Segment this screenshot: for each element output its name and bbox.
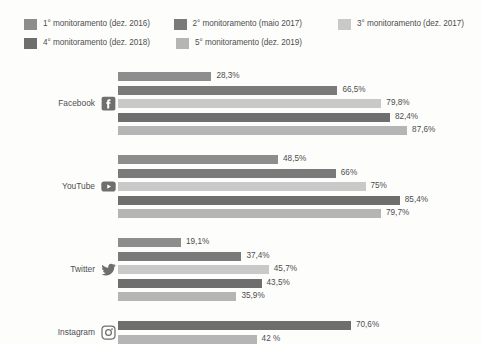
- category-label-wrap-instagram: Instagram: [0, 321, 116, 344]
- bar-value-label: 85,4%: [405, 196, 428, 204]
- legend-item-2: 2° monitoramento (maio 2017): [174, 19, 338, 30]
- bar: [118, 335, 257, 344]
- facebook-icon: [101, 96, 116, 111]
- bar-row: 79,8%: [118, 99, 481, 108]
- youtube-icon-wrap: [101, 179, 116, 194]
- legend-row-2: 4° monitoramento (dez. 2018) 5° monitora…: [24, 37, 464, 49]
- bar-group-twitter: Twitter19,1%37,4%45,7%43,5%35,9%: [0, 238, 481, 301]
- bar-value-label: 43,5%: [267, 279, 290, 287]
- bar-value-label: 48,5%: [283, 155, 306, 163]
- bar-value-label: 79,8%: [386, 99, 409, 107]
- instagram-icon-wrap: [101, 325, 116, 340]
- bar-value-label: 37,4%: [246, 252, 269, 260]
- bar-row: 48,5%: [118, 155, 481, 164]
- bar-value-label: 75%: [371, 182, 387, 190]
- bar-row: 37,4%: [118, 252, 481, 261]
- bar-value-label: 19,1%: [186, 238, 209, 246]
- legend-label-2: 2° monitoramento (maio 2017): [193, 20, 302, 28]
- legend-swatch-1: [24, 19, 37, 30]
- bars-facebook: 28,3%66,5%79,8%82,4%87,6%: [118, 72, 481, 135]
- bar-group-facebook: Facebook28,3%66,5%79,8%82,4%87,6%: [0, 72, 481, 135]
- bar-row: 28,3%: [118, 72, 481, 81]
- bar: [118, 182, 366, 191]
- bar-group-instagram: Instagram70,6%42 %: [0, 321, 481, 344]
- bar-row: 66%: [118, 169, 481, 178]
- bar-value-label: 35,9%: [241, 292, 264, 300]
- legend-label-4: 4° monitoramento (dez. 2018): [43, 39, 150, 47]
- bar: [118, 321, 351, 330]
- bar-row: 35,9%: [118, 292, 481, 301]
- bar-chart: 1° monitoramento (dez. 2016) 2° monitora…: [0, 0, 481, 344]
- category-label: Twitter: [70, 265, 95, 273]
- bar-row: 42 %: [118, 335, 481, 344]
- bar-value-label: 70,6%: [356, 321, 379, 329]
- twitter-icon: [101, 262, 116, 277]
- bar: [118, 292, 236, 301]
- bar-value-label: 45,7%: [274, 265, 297, 273]
- bar-row: 87,6%: [118, 126, 481, 135]
- legend-item-3: 3° monitoramento (dez. 2017): [338, 19, 464, 30]
- legend-item-5: 5° monitoramento (dez. 2019): [176, 38, 343, 49]
- legend-label-1: 1° monitoramento (dez. 2016): [43, 20, 150, 28]
- legend-swatch-5: [176, 38, 189, 49]
- facebook-icon-wrap: [101, 96, 116, 111]
- plot-area: Facebook28,3%66,5%79,8%82,4%87,6%YouTube…: [0, 72, 481, 344]
- bar: [118, 265, 269, 274]
- bar: [118, 86, 337, 95]
- legend-row-1: 1° monitoramento (dez. 2016) 2° monitora…: [24, 18, 464, 30]
- bar: [118, 72, 211, 81]
- legend-swatch-3: [338, 19, 351, 30]
- chart-legend: 1° monitoramento (dez. 2016) 2° monitora…: [24, 18, 464, 56]
- legend-item-1: 1° monitoramento (dez. 2016): [24, 19, 174, 30]
- bar-value-label: 79,7%: [386, 209, 409, 217]
- instagram-icon: [101, 325, 116, 340]
- bar-row: 82,4%: [118, 113, 481, 122]
- bar-row: 85,4%: [118, 196, 481, 205]
- bar-value-label: 28,3%: [216, 72, 239, 80]
- category-label-wrap-twitter: Twitter: [0, 238, 116, 301]
- legend-label-3: 3° monitoramento (dez. 2017): [357, 20, 464, 28]
- bar: [118, 279, 262, 288]
- bar-value-label: 82,4%: [395, 113, 418, 121]
- bars-youtube: 48,5%66%75%85,4%79,7%: [118, 155, 481, 218]
- bar: [118, 155, 278, 164]
- bar: [118, 99, 381, 108]
- bar-row: 75%: [118, 182, 481, 191]
- bar: [118, 252, 241, 261]
- category-label: Facebook: [58, 99, 95, 107]
- category-label: Instagram: [58, 328, 95, 336]
- bar-row: 66,5%: [118, 86, 481, 95]
- bar-row: 43,5%: [118, 279, 481, 288]
- bar-row: 45,7%: [118, 265, 481, 274]
- bar-value-label: 66%: [341, 169, 357, 177]
- bar-row: 79,7%: [118, 209, 481, 218]
- bars-instagram: 70,6%42 %: [118, 321, 481, 344]
- bar-value-label: 87,6%: [412, 126, 435, 134]
- bar-group-youtube: YouTube48,5%66%75%85,4%79,7%: [0, 155, 481, 218]
- bar: [118, 169, 336, 178]
- bar: [118, 196, 400, 205]
- bar-value-label: 42 %: [262, 335, 281, 343]
- legend-swatch-2: [174, 19, 187, 30]
- bar-row: 70,6%: [118, 321, 481, 330]
- legend-item-4: 4° monitoramento (dez. 2018): [24, 38, 176, 49]
- bar-value-label: 66,5%: [342, 86, 365, 94]
- legend-label-5: 5° monitoramento (dez. 2019): [195, 39, 302, 47]
- twitter-icon-wrap: [101, 262, 116, 277]
- category-label-wrap-youtube: YouTube: [0, 155, 116, 218]
- bar: [118, 209, 381, 218]
- bars-twitter: 19,1%37,4%45,7%43,5%35,9%: [118, 238, 481, 301]
- category-label: YouTube: [62, 182, 95, 190]
- legend-swatch-4: [24, 38, 37, 49]
- category-label-wrap-facebook: Facebook: [0, 72, 116, 135]
- bar: [118, 238, 181, 247]
- bar-row: 19,1%: [118, 238, 481, 247]
- bar: [118, 113, 390, 122]
- bar: [118, 126, 407, 135]
- youtube-icon: [101, 179, 116, 194]
